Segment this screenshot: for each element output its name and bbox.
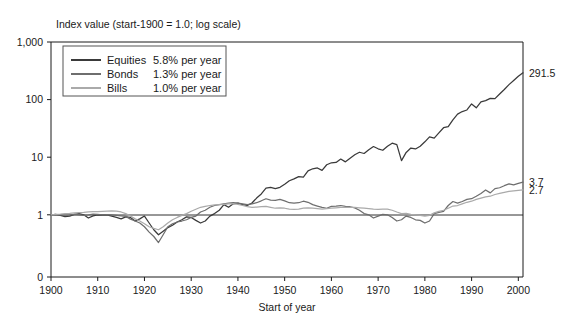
chart-container: Index value (start-1900 = 1.0; log scale… [0,0,576,333]
legend: Equities5.8% per yearBonds1.3% per yearB… [63,46,226,96]
x-axis-tick-label: 1940 [226,284,250,296]
x-axis-tick-group: 1900191019201930194019501960197019801990… [39,277,530,296]
series-line-equities [51,73,523,235]
x-axis-title-group: Start of year [258,301,316,313]
legend-label-equities: Equities [107,54,147,66]
x-axis-tick-label: 1910 [86,284,110,296]
x-axis-tick-label: 1980 [413,284,437,296]
x-axis-tick-label: 2000 [507,284,531,296]
x-axis-tick-label: 1970 [366,284,390,296]
end-value-label-bills: 2.7 [529,184,544,196]
x-axis-title: Start of year [258,301,316,313]
chart-title-group: Index value (start-1900 = 1.0; log scale… [56,18,241,30]
line-chart: Index value (start-1900 = 1.0; log scale… [0,0,576,333]
legend-return-bonds: 1.3% per year [153,68,222,80]
y-axis-tick-group: 1,0001001010 [17,36,51,283]
end-label-group: 291.53.72.7 [529,67,555,196]
legend-return-equities: 5.8% per year [153,54,222,66]
x-axis-tick-label: 1900 [39,284,63,296]
x-axis-tick-label: 1990 [460,284,484,296]
x-axis-tick-label: 1930 [180,284,204,296]
x-axis-tick-label: 1920 [133,284,157,296]
y-axis-tick-label: 100 [25,93,43,105]
y-axis-tick-label: 1 [37,209,43,221]
series-line-bills [51,190,523,230]
chart-title: Index value (start-1900 = 1.0; log scale… [56,18,241,30]
y-axis-tick-label: 1,000 [17,36,43,48]
legend-label-bills: Bills [107,82,128,94]
y-axis-tick-label: 0 [37,271,43,283]
end-value-label-equities: 291.5 [529,67,555,79]
series-group [51,73,523,243]
x-axis-tick-label: 1950 [273,284,297,296]
legend-label-bonds: Bonds [107,68,139,80]
x-axis-tick-label: 1960 [320,284,344,296]
y-axis-tick-label: 10 [31,151,43,163]
legend-return-bills: 1.0% per year [153,82,222,94]
